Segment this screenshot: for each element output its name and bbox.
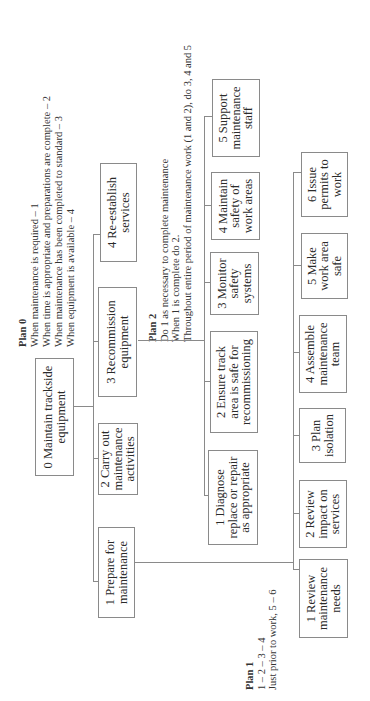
- connector: [293, 265, 301, 266]
- plan-2: Plan 2 Do 1 as necessary to complete mai…: [147, 45, 193, 342]
- task-2-5-support-maintenance-staff: 5 Support maintenance staff: [212, 79, 260, 157]
- task-1-prepare-for-maintenance: 1 Prepare for maintenance: [98, 527, 135, 618]
- plan-0: Plan 0 When maintenance is required – 1 …: [17, 96, 77, 347]
- plan1-bus: [293, 173, 294, 570]
- connector: [204, 205, 211, 206]
- level1-bus: [93, 235, 94, 582]
- plan-2-line: Do 1 as necessary to complete maintenanc…: [159, 45, 171, 342]
- task-1-1-review-maintenance-needs: 1 Review maintenance needs: [299, 559, 348, 638]
- task-3-recommission-equipment: 3 Recommission equipment: [98, 287, 137, 397]
- plan-0-title: Plan 0: [17, 96, 29, 347]
- plan-0-line: When maintenance has been completed to s…: [53, 96, 65, 347]
- plan-1-line: 1 – 2 – 3 – 4: [256, 589, 268, 690]
- plan-0-line: When maintenance is required – 1: [29, 96, 41, 347]
- task-2-2-ensure-track-safe: 2 Ensure track area is safe for recommis…: [210, 331, 258, 433]
- task-2-4-maintain-safety-work-areas: 4 Maintain safety of work areas: [211, 172, 260, 240]
- task-1-5-make-work-area-safe: 5 Make work area safe: [301, 233, 348, 299]
- task-0-maintain-trackside-equipment: 0 Maintain trackside equipment: [35, 358, 74, 476]
- connector: [93, 234, 100, 235]
- plan-1: Plan 1 1 – 2 – 3 – 4 Just prior to work,…: [244, 589, 279, 690]
- connector: [293, 172, 301, 173]
- task-2-carry-out-maintenance-activities: 2 Carry out maintenance activities: [98, 423, 138, 495]
- task-1-2-review-impact-on-services: 2 Review impact on services: [299, 480, 347, 548]
- task-2-1-diagnose: 1 Diagnose replace or repair as appropri…: [208, 450, 258, 545]
- connector: [204, 116, 212, 117]
- plan-1-title: Plan 1: [244, 589, 256, 690]
- connector: [138, 340, 204, 341]
- plan-2-title: Plan 2: [147, 45, 159, 342]
- plan-0-line: When time is appropriate and preparation…: [41, 96, 53, 347]
- connector: [74, 406, 93, 407]
- hta-diagram: Plan 0 When maintenance is required – 1 …: [0, 0, 370, 701]
- plan-2-line: Throughout entire period of maintenance …: [182, 45, 194, 342]
- task-4-re-establish-services: 4 Re-establish services: [100, 163, 137, 262]
- connector: [135, 562, 293, 563]
- task-1-6-issue-permits-to-work: 6 Issue permits to work: [301, 152, 348, 217]
- plan-2-line: When 1 is complete do 2.: [170, 45, 182, 342]
- plan-0-line: When equipment is available – 4: [65, 96, 77, 347]
- task-1-3-plan-isolation: 3 Plan isolation: [299, 408, 346, 463]
- task-2-3-monitor-safety-systems: 3 Monitor safety systems: [210, 252, 259, 315]
- plan2-bus: [204, 117, 205, 496]
- task-1-4-assemble-maintenance-team: 4 Assemble maintenance team: [299, 315, 347, 393]
- plan-1-line: Just prior to work, 5 – 6: [267, 589, 279, 690]
